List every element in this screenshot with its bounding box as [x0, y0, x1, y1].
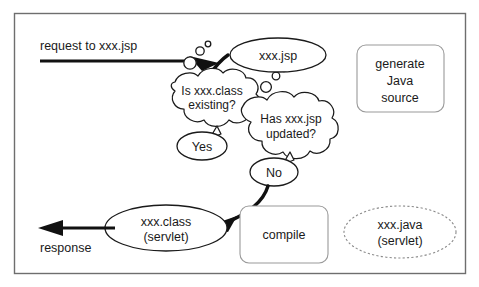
node-xxx-java-servlet-line-2: (servlet): [377, 234, 422, 248]
node-no-answer-label: No: [266, 166, 282, 180]
thought-dot-large-a: [184, 57, 196, 69]
node-generate-java-source-line-2: Java: [387, 74, 413, 88]
thought-dot-small-a: [205, 41, 211, 47]
node-has-xxx-jsp-updated-line-2: updated?: [266, 127, 316, 141]
node-xxx-java-servlet-line-1: xxx.java: [377, 218, 422, 232]
thought-dot-large-b: [261, 82, 272, 93]
node-has-xxx-jsp-updated-line-1: Has xxx.jsp: [260, 112, 322, 126]
node-xxx-class-servlet-line-1: xxx.class: [141, 215, 192, 229]
request-label: request to xxx.jsp: [40, 39, 137, 53]
diagram-canvas: xxx.jsp Is xxx.class existing? Has xxx.j…: [0, 0, 479, 287]
node-xxx-jsp-label: xxx.jsp: [259, 49, 297, 63]
node-xxx-class-servlet-line-2: (servlet): [143, 230, 188, 244]
node-generate-java-source[interactable]: generate Java source: [357, 45, 444, 112]
response-label: response: [40, 241, 91, 255]
node-xxx-class-servlet[interactable]: xxx.class (servlet): [105, 205, 227, 251]
node-compile[interactable]: compile: [240, 206, 328, 263]
node-yes-answer-label: Yes: [192, 140, 212, 154]
thought-dot-medium-a: [196, 47, 204, 55]
node-compile-label: compile: [262, 228, 305, 242]
node-is-xxx-class-existing-line-2: existing?: [188, 98, 236, 112]
node-generate-java-source-line-1: generate: [375, 57, 424, 71]
thought-dot-medium-b: [272, 72, 280, 80]
node-xxx-jsp[interactable]: xxx.jsp: [230, 38, 326, 72]
node-generate-java-source-line-3: source: [381, 91, 419, 105]
node-xxx-java-servlet[interactable]: xxx.java (servlet): [344, 206, 456, 258]
node-is-xxx-class-existing-line-1: Is xxx.class: [181, 84, 242, 98]
jsp-flow-diagram: xxx.jsp Is xxx.class existing? Has xxx.j…: [0, 0, 479, 287]
